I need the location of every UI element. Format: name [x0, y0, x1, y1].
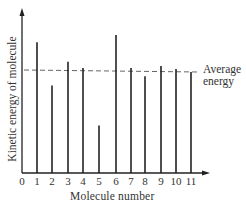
x-tick-5: 5: [96, 175, 102, 187]
average-label-line1: Average: [203, 63, 241, 75]
x-axis-label: Molecule number: [70, 190, 154, 202]
x-tick-1: 1: [34, 175, 40, 187]
bars-group: [37, 35, 191, 173]
x-tick-10: 10: [171, 175, 182, 187]
average-energy-label: Average energy: [203, 63, 241, 87]
x-tick-3: 3: [65, 175, 71, 187]
x-tick-8: 8: [142, 175, 148, 187]
x-tick-4: 4: [80, 175, 86, 187]
average-label-line2: energy: [203, 75, 241, 87]
y-axis-label-text: Kinetic energy of molecule: [6, 36, 18, 161]
x-tick-11: 11: [186, 175, 197, 187]
x-tick-2: 2: [49, 175, 55, 187]
x-tick-9: 9: [158, 175, 164, 187]
x-tick-0: 0: [19, 175, 25, 187]
x-tick-6: 6: [113, 175, 119, 187]
y-axis-arrow-icon: [20, 8, 25, 16]
x-axis-arrow-icon: [202, 171, 210, 176]
y-axis-label: Kinetic energy of molecule: [5, 24, 19, 174]
x-tick-7: 7: [128, 175, 134, 187]
average-energy-line: [24, 70, 198, 72]
